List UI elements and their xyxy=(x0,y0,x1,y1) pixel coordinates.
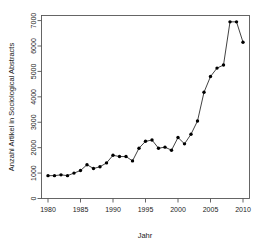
data-point xyxy=(59,173,62,176)
y-tick-label: 4000 xyxy=(30,89,37,105)
data-point xyxy=(196,119,199,122)
series-line xyxy=(48,22,243,176)
data-point xyxy=(228,20,231,23)
data-point xyxy=(215,66,218,69)
data-point xyxy=(176,136,179,139)
y-tick-label: 2000 xyxy=(30,140,37,156)
data-point xyxy=(163,145,166,148)
data-point xyxy=(111,154,114,157)
data-point xyxy=(137,146,140,149)
series-markers xyxy=(46,20,244,177)
y-tick-label: 1000 xyxy=(30,165,37,181)
y-axis-title: Anzahl Artikel in Sociological Abstracts xyxy=(7,43,16,172)
y-tick-label: 6000 xyxy=(30,38,37,54)
x-axis: 1980198519901995200020052010 xyxy=(40,199,251,213)
data-point xyxy=(124,155,127,158)
data-point xyxy=(189,133,192,136)
y-axis: 01000200030004000500060007000 xyxy=(30,13,41,201)
data-point xyxy=(98,165,101,168)
x-axis-title: Jahr xyxy=(138,231,153,240)
data-point xyxy=(46,174,49,177)
plot-frame xyxy=(42,16,250,199)
data-point xyxy=(222,63,225,66)
y-tick-label: 7000 xyxy=(30,13,37,29)
data-point xyxy=(79,169,82,172)
data-point xyxy=(170,149,173,152)
data-point xyxy=(118,155,121,158)
data-point xyxy=(241,40,244,43)
data-point xyxy=(183,142,186,145)
x-tick-label: 2000 xyxy=(170,206,186,213)
x-tick-label: 1990 xyxy=(105,206,121,213)
data-point xyxy=(105,161,108,164)
data-point xyxy=(150,138,153,141)
x-tick-label: 1985 xyxy=(73,206,89,213)
data-point xyxy=(157,146,160,149)
data-point xyxy=(66,174,69,177)
data-point xyxy=(92,167,95,170)
data-point xyxy=(144,140,147,143)
y-tick-label: 0 xyxy=(30,196,37,200)
data-point xyxy=(209,75,212,78)
data-point xyxy=(235,20,238,23)
x-tick-label: 1980 xyxy=(40,206,56,213)
data-point xyxy=(53,174,56,177)
chart-canvas: 01000200030004000500060007000 1980198519… xyxy=(0,0,266,249)
data-point xyxy=(85,163,88,166)
data-point xyxy=(131,159,134,162)
y-tick-label: 5000 xyxy=(30,64,37,80)
x-tick-label: 2010 xyxy=(235,206,251,213)
data-point xyxy=(202,91,205,94)
data-point xyxy=(72,171,75,174)
x-tick-label: 2005 xyxy=(203,206,219,213)
x-tick-label: 1995 xyxy=(138,206,154,213)
chart-figure: 01000200030004000500060007000 1980198519… xyxy=(0,0,266,249)
y-tick-label: 3000 xyxy=(30,114,37,130)
